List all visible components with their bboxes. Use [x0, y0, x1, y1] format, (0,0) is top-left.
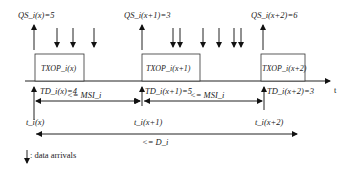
td-label-2: TD_i(x+1)=5: [145, 86, 192, 96]
service-interval-diagram: t TXOP_i(x) TXOP_i(x+1) TXOP_i(x+2) QS_i…: [0, 0, 345, 171]
qs-arrow-1: QS_i(x)=5: [18, 10, 54, 50]
txop-label-1: TXOP_i(x): [41, 64, 76, 73]
time-label-2: t_i(x+1): [134, 117, 163, 127]
data-arrivals-group-1: [57, 28, 94, 47]
txop-box-2: TXOP_i(x+1): [142, 54, 200, 81]
legend-text: : data arrivals: [30, 150, 76, 160]
txop-box-3: TXOP_i(x+2): [261, 54, 307, 81]
qs-label-1: QS_i(x)=5: [18, 10, 54, 20]
txop-box-1: TXOP_i(x): [35, 54, 84, 81]
qs-label-2: QS_i(x+1)=3: [124, 10, 170, 20]
time-label-1: t_i(x): [26, 117, 45, 127]
time-label-3: t_i(x+2): [255, 117, 284, 127]
legend: : data arrivals: [27, 150, 76, 163]
qs-arrow-3: QS_i(x+2)=6: [251, 10, 298, 50]
d-interval: <= D_i: [36, 131, 297, 147]
axis-label-t: t: [334, 85, 337, 95]
msi-label-2: <= MSI_i: [190, 90, 225, 100]
td-label-3: TD_i(x+2)=3: [267, 86, 314, 96]
d-label: <= D_i: [142, 137, 169, 147]
msi-label-1: <= MSI_i: [67, 90, 102, 100]
qs-arrow-2: QS_i(x+1)=3: [124, 10, 170, 50]
data-arrivals-group-2: [173, 28, 241, 47]
qs-label-3: QS_i(x+2)=6: [251, 10, 298, 20]
txop-label-2: TXOP_i(x+1): [146, 64, 191, 73]
txop-label-3: TXOP_i(x+2): [262, 64, 307, 73]
td-arrow-3: TD_i(x+2)=3: [264, 86, 314, 110]
